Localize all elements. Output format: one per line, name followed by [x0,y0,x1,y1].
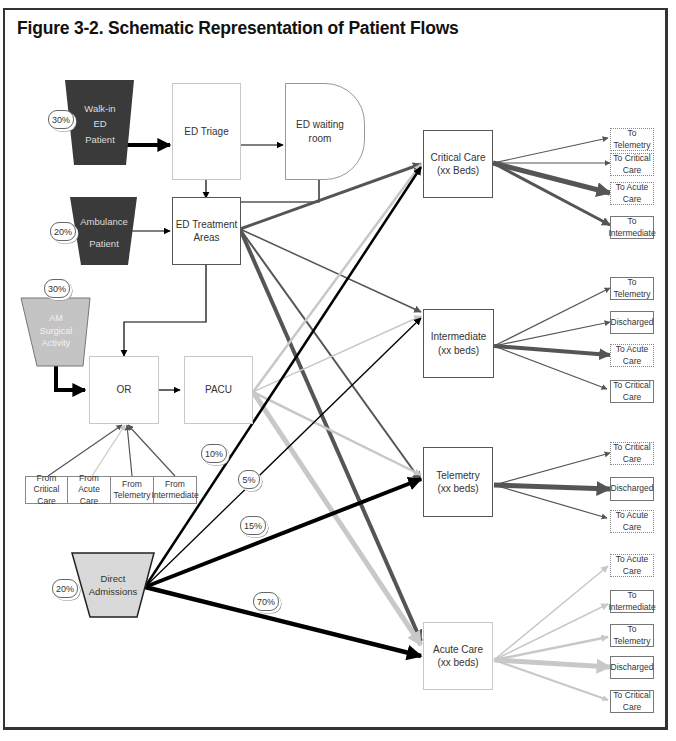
from-intermediate-box: FromIntermediate [154,476,197,504]
cc-out-to-critical-care: To CriticalCare [610,153,654,176]
im-out-label: To Acute [616,344,649,356]
tm-out-discharged: Discharged [610,477,654,501]
acute-care-label-2: (xx beds) [433,656,483,670]
split-acute-care-badge: 70% [253,592,279,611]
tm-out-label: Care [616,522,649,534]
ed-triage-label: ED Triage [184,125,228,139]
direct-admissions-percent-badge: 20% [52,579,78,598]
cc-out-to-intermediate: ToIntermediate [610,216,654,239]
cc-out-label: To Acute [616,182,649,194]
source-direct-admissions: DirectAdmissions [82,560,144,610]
from-critical-care-label-2: Care [26,496,67,507]
cc-out-to-acute-care: To AcuteCare [610,182,654,205]
critical-care-label-1: Critical Care [430,151,485,165]
im-out-discharged: Discharged [610,311,654,334]
ac-out-label: To Acute [616,554,649,566]
ac-out-label: Care [616,566,649,578]
ac-out-label: Telemetry [614,636,651,648]
am-surgical-label-2: Surgical [40,325,73,338]
ac-out-label: To [608,590,655,602]
walk-in-label-3: Patient [84,132,115,147]
walk-in-label-1: Walk-in [84,101,115,116]
cc-out-label: Intermediate [608,228,655,240]
ac-out-label: To Critical [613,690,650,702]
am-surgical-label-3: Activity [40,337,73,350]
ambulance-label-2: Patient [80,233,128,255]
source-am-surgical-activity: AMSurgicalActivity [28,302,84,360]
from-acute-care-box: From AcuteCare [68,476,111,504]
am-surgical-percent-badge: 30% [44,279,70,298]
walk-in-label-2: ED [84,116,115,131]
ac-out-to-telemetry: ToTelemetry [610,624,654,647]
ed-treatment-label-2: Areas [176,231,238,245]
direct-admissions-label-2: Admissions [89,585,138,598]
ac-out-to-intermediate: ToIntermediate [610,590,654,613]
ac-out-label: Intermediate [608,602,655,614]
telemetry-label-1: Telemetry [436,469,479,483]
ac-out-label: To [614,624,651,636]
node-critical-care: Critical Care(xx Beds) [423,130,493,198]
node-telemetry: Telemetry(xx beds) [423,447,493,517]
walk-in-percent-badge: 30% [48,110,74,129]
node-pacu: PACU [184,356,253,424]
im-out-to-critical-care: To CriticalCare [610,380,654,403]
ed-treatment-label-1: ED Treatment [176,218,238,232]
tm-out-to-acute-care: To AcuteCare [610,510,654,533]
cc-out-label: To Critical [613,153,650,165]
critical-care-label-2: (xx Beds) [430,164,485,178]
ed-waiting-room-label: ED waiting room [286,118,354,145]
pacu-label: PACU [205,383,232,397]
im-out-label: Discharged [611,317,654,329]
node-ed-waiting-room: ED waiting room [285,83,365,180]
tm-out-label: To Critical [613,442,650,454]
or-label: OR [117,383,132,397]
source-walk-in-ed-patient: Walk-inEDPatient [70,92,130,156]
im-out-to-telemetry: ToTelemetry [610,277,654,300]
from-telemetry-label-1: From [114,479,151,490]
tm-out-label: To Acute [616,510,649,522]
cc-out-label: To [608,216,655,228]
ac-out-label: Care [613,702,650,714]
ac-out-to-acute-care: To AcuteCare [610,554,654,577]
source-ambulance-patient: AmbulancePatient [78,206,130,260]
split-intermediate-badge: 5% [238,470,260,489]
node-acute-care: Acute Care(xx beds) [423,622,493,690]
im-out-label: Care [616,356,649,368]
split-telemetry-badge: 15% [240,516,266,535]
ambulance-label-1: Ambulance [80,211,128,233]
ambulance-percent-badge: 20% [50,222,76,241]
tm-out-label: Discharged [611,483,654,495]
im-out-label: Telemetry [614,289,651,301]
from-acute-care-label-2: Care [68,496,110,507]
am-surgical-label-1: AM [40,312,73,325]
from-intermediate-label-2: Intermediate [151,490,198,501]
cc-out-label: Telemetry [614,140,651,152]
intermediate-label-2: (xx beds) [431,344,487,358]
acute-care-label-1: Acute Care [433,643,483,657]
from-telemetry-box: FromTelemetry [111,476,154,504]
node-ed-treatment-areas: ED TreatmentAreas [172,197,241,265]
cc-out-label: Care [616,194,649,206]
intermediate-label-1: Intermediate [431,330,487,344]
im-out-label: Care [613,392,650,404]
cc-out-label: To [614,128,651,140]
cc-out-to-telemetry: ToTelemetry [610,128,654,151]
telemetry-label-2: (xx beds) [436,482,479,496]
ac-out-discharged: Discharged [610,656,654,679]
direct-admissions-label-1: Direct [89,572,138,585]
cc-out-label: Care [613,165,650,177]
from-acute-care-label-1: From Acute [68,473,110,495]
ac-out-to-critical-care: To CriticalCare [610,690,654,713]
node-ed-triage: ED Triage [172,83,241,180]
from-telemetry-label-2: Telemetry [114,490,151,501]
tm-out-label: Care [613,454,650,466]
node-or: OR [89,356,159,424]
split-critical-care-badge: 10% [201,444,227,463]
im-out-label: To [614,277,651,289]
tm-out-to-critical-care: To CriticalCare [610,442,654,465]
ac-out-label: Discharged [611,662,654,674]
from-intermediate-label-1: From [151,479,198,490]
from-critical-care-label-1: From Critical [26,473,67,495]
node-intermediate: Intermediate(xx beds) [423,309,494,378]
im-out-label: To Critical [613,380,650,392]
